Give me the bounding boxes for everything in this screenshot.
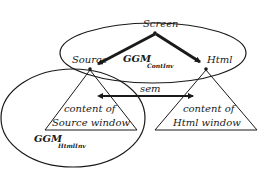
html-node	[204, 67, 208, 71]
screen-to-html-arrow	[156, 34, 200, 62]
screen-label: Screen	[143, 18, 179, 29]
html-label: Html	[206, 54, 232, 65]
source-content-line1: content of	[64, 103, 118, 114]
continv-label-sub: ContInv	[147, 62, 174, 69]
html-content-line1: content of	[183, 103, 237, 114]
continv-ellipse	[60, 23, 246, 83]
sem-label: sem	[140, 83, 161, 94]
diagram-canvas: Screen Source Html sem content of Source…	[0, 0, 265, 177]
source-content-line2: Source window	[52, 117, 130, 128]
source-label: Source	[72, 54, 108, 65]
html-content-line2: Html window	[172, 117, 241, 128]
htmlinv-label-sub: HtmlInv	[57, 142, 86, 149]
source-node	[88, 67, 92, 71]
